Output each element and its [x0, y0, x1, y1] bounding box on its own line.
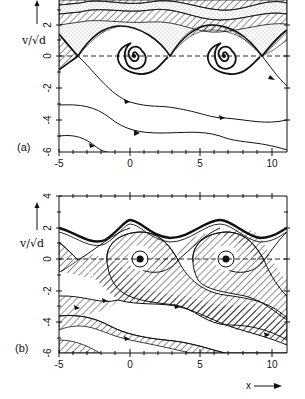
xtick-label-b-neg5: -5 — [55, 359, 64, 370]
ytick-label-a-neg6: -6 — [42, 147, 53, 156]
ytick-label-b-neg4: -4 — [42, 317, 53, 326]
ytick-label-a-2: 2 — [42, 22, 53, 28]
y-axis-arrowhead-b — [35, 202, 40, 208]
ytick-label-b-neg6: -6 — [42, 348, 53, 357]
panel-a: 2 0 -2 -4 -6 -5 0 5 10 v/√d (a) — [17, 0, 290, 169]
hatched-band-b-3 — [59, 340, 100, 353]
ytick-label-a-neg2: -2 — [42, 83, 53, 92]
xtick-label-a-0: 0 — [127, 158, 133, 169]
xtick-label-a-10: 10 — [266, 158, 278, 169]
ytick-label-a-neg4: -4 — [42, 115, 53, 124]
spiral-center-2 — [222, 54, 226, 58]
panel-label-a: (a) — [17, 141, 30, 153]
ytick-label-b-2: 2 — [42, 225, 53, 231]
trajectory-4 — [175, 108, 215, 120]
x-axis-arrowhead — [274, 383, 282, 389]
x-axis-title: x — [246, 380, 251, 391]
y-axis-title-b: v/√d — [19, 237, 44, 250]
arrow-marker — [268, 75, 275, 80]
panel-b: 4 2 0 -2 -4 -6 -5 0 5 10 v/√d (b) x — [15, 192, 290, 391]
xtick-label-a-neg5: -5 — [55, 158, 64, 169]
figure: 2 0 -2 -4 -6 -5 0 5 10 v/√d (a) — [0, 0, 305, 399]
panel-b-plot-area — [59, 220, 287, 353]
panel-label-b: (b) — [15, 342, 28, 354]
y-axis-title-a: v/√d — [21, 34, 46, 47]
xtick-label-a-5: 5 — [197, 158, 203, 169]
ytick-label-a-0: 0 — [42, 53, 53, 59]
ytick-label-b-0: 0 — [42, 256, 53, 262]
xtick-label-b-0: 0 — [127, 359, 133, 370]
y-axis-arrowhead-a — [35, 0, 40, 6]
xtick-label-b-10: 10 — [266, 359, 278, 370]
ytick-label-b-4: 4 — [42, 193, 53, 199]
spiral-attractor-2 — [208, 43, 260, 74]
trajectory-1b — [262, 56, 287, 86]
xtick-label-b-5: 5 — [197, 359, 203, 370]
trajectory-1 — [78, 56, 287, 122]
trajectory-3 — [59, 135, 108, 152]
spiral-attractor-1 — [118, 43, 168, 74]
ytick-label-b-neg2: -2 — [42, 286, 53, 295]
spiral-center-1 — [132, 54, 136, 58]
trajectory-2 — [59, 105, 287, 150]
panel-a-plot-area — [59, 0, 287, 152]
